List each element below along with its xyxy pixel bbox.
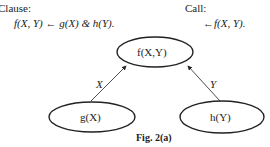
node-f-label: f(X,Y) [137, 46, 167, 58]
goal-tree-diagram [0, 0, 270, 147]
edge-label-x: X [96, 78, 103, 90]
figure-caption: Fig. 2(a) [136, 132, 172, 144]
node-g-label: g(X) [80, 111, 101, 123]
node-h-label: h(Y) [210, 111, 231, 123]
edge-label-y: Y [210, 78, 216, 90]
